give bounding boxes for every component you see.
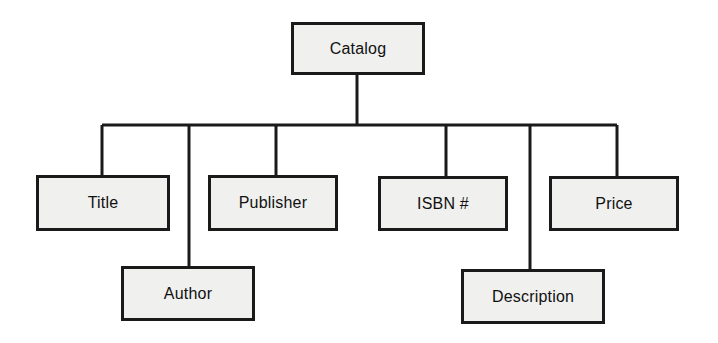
node-box-author[interactable]: Author [121,266,255,321]
node-box-title[interactable]: Title [36,175,170,231]
node-box-catalog[interactable]: Catalog [291,22,425,75]
node-box-publisher[interactable]: Publisher [208,175,338,231]
diagram-canvas: Catalog Title Author Publisher ISBN # De… [0,0,718,343]
node-label-author: Author [164,286,212,302]
node-label-publisher: Publisher [239,195,308,211]
node-box-price[interactable]: Price [549,176,679,231]
node-box-description[interactable]: Description [461,269,605,324]
node-label-isbn: ISBN # [417,196,469,212]
node-label-description: Description [492,289,574,305]
node-label-catalog: Catalog [330,41,387,57]
node-label-title: Title [88,195,119,211]
node-box-isbn[interactable]: ISBN # [378,176,508,231]
node-label-price: Price [595,196,632,212]
